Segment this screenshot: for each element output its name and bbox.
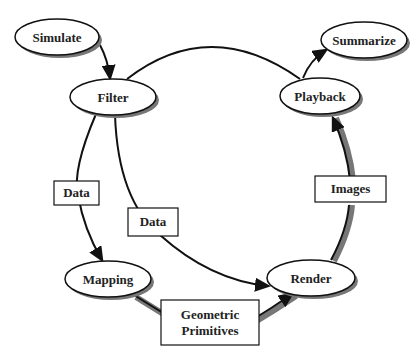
svg-text:Data: Data: [63, 185, 90, 200]
edge-filter-playback: [127, 47, 300, 79]
edge-label-data-left: Data: [54, 181, 99, 205]
node-label: Simulate: [32, 30, 81, 45]
node-simulate[interactable]: Simulate: [15, 19, 102, 58]
svg-text:Primitives: Primitives: [181, 323, 238, 338]
svg-text:Images: Images: [331, 181, 371, 196]
svg-text:Data: Data: [140, 214, 167, 229]
edge-filter-render: [115, 115, 268, 286]
node-label: Playback: [294, 89, 346, 104]
node-mapping[interactable]: Mapping: [65, 261, 154, 300]
node-label: Filter: [97, 90, 128, 105]
node-label: Summarize: [332, 33, 396, 48]
edge-simulate-filter: [100, 45, 110, 78]
edge-label-geometric-primitives: Geometric Primitives: [161, 300, 259, 345]
svg-text:Geometric: Geometric: [181, 307, 240, 322]
node-render[interactable]: Render: [267, 260, 358, 299]
edge-label-data-center: Data: [128, 208, 178, 236]
pipeline-diagram: Simulate Filter Summarize Playback Mappi…: [0, 0, 420, 363]
node-label: Mapping: [83, 272, 134, 287]
node-playback[interactable]: Playback: [280, 78, 363, 117]
node-summarize[interactable]: Summarize: [321, 22, 410, 61]
edge-label-images: Images: [315, 176, 386, 202]
node-filter[interactable]: Filter: [70, 79, 159, 118]
node-label: Render: [290, 271, 331, 286]
edge-playback-summarize: [303, 50, 326, 78]
